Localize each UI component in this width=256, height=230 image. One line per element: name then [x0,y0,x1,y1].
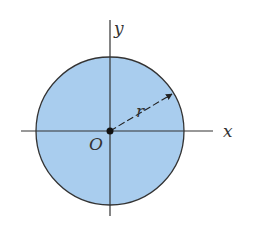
y-axis-label: y [113,18,124,38]
origin-label: O [89,134,103,154]
circle-diagram: y x O r [0,0,256,230]
origin-point [107,128,114,135]
radius-label: r [136,101,145,121]
x-axis-label: x [223,121,233,141]
